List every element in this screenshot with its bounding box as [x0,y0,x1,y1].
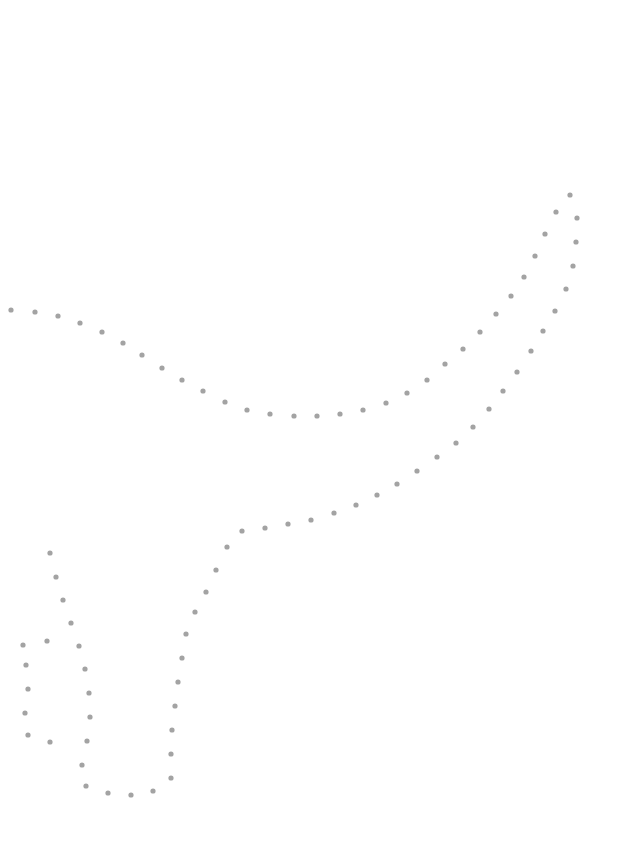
dot [159,365,164,370]
dot [285,521,290,526]
dot [414,468,419,473]
dot [55,313,60,318]
dot [308,517,313,522]
worksheet-page [0,0,642,859]
dot [179,377,184,382]
dot [99,329,104,334]
dot [532,253,537,258]
dot [168,751,173,756]
dot [87,714,92,719]
dot [567,192,572,197]
dot [500,388,505,393]
dot [203,589,208,594]
dot [150,788,155,793]
dot [82,666,87,671]
dot [84,738,89,743]
dot [8,307,13,312]
dot [22,710,27,715]
dot [424,377,429,382]
dot [47,550,52,555]
dot [25,732,30,737]
dot [374,492,379,497]
dot [291,413,296,418]
dot [32,309,37,314]
dot-group-left-detail [20,638,52,744]
dot [508,293,513,298]
dot [224,544,229,549]
dot [83,783,88,788]
dot [192,609,197,614]
dot [25,686,30,691]
dot [574,215,579,220]
dot [20,642,25,647]
dot [76,643,81,648]
dot [514,369,519,374]
dot [542,231,547,236]
dot [128,792,133,797]
dot [179,655,184,660]
dot [434,454,439,459]
dot [47,739,52,744]
dot [169,727,174,732]
dot [470,424,475,429]
dot-canvas [0,0,642,859]
dot [404,390,409,395]
dot [553,209,558,214]
dot [267,411,272,416]
dot [139,352,144,357]
dot-group-main-outline [8,192,579,797]
dot [353,502,358,507]
dot [175,679,180,684]
dot [183,631,188,636]
dot [460,346,465,351]
dot [105,790,110,795]
dot [213,567,218,572]
dot [239,528,244,533]
dot [337,411,342,416]
dot [570,263,575,268]
dot [262,525,267,530]
dot [486,406,491,411]
dot [493,311,498,316]
dot [477,329,482,334]
dot [120,340,125,345]
dot [563,286,568,291]
dot [383,400,388,405]
dot [44,638,49,643]
dot [314,413,319,418]
dot [331,510,336,515]
dot [23,662,28,667]
dot [168,775,173,780]
dot [521,274,526,279]
dot [222,399,227,404]
dot [394,481,399,486]
dot [79,762,84,767]
dot [200,388,205,393]
dot [552,308,557,313]
dot [573,239,578,244]
dot [53,574,58,579]
dot [172,703,177,708]
dot [453,440,458,445]
dot [86,690,91,695]
dot [244,407,249,412]
dot [360,407,365,412]
dot [77,320,82,325]
dot [540,328,545,333]
dot [68,620,73,625]
dot [528,348,533,353]
dot [442,361,447,366]
dot [60,597,65,602]
